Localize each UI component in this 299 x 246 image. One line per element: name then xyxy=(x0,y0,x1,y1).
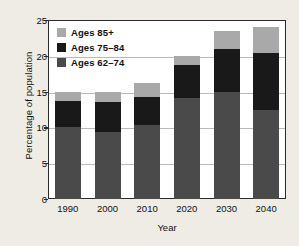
bar-segment xyxy=(55,101,81,127)
y-tick-mark xyxy=(44,199,48,200)
legend-label: Ages 85+ xyxy=(71,27,114,38)
legend-item: Ages 85+ xyxy=(57,26,124,39)
bar-segment xyxy=(253,110,279,200)
bar-segment xyxy=(55,127,81,199)
bar-segment xyxy=(253,53,279,110)
bar-segment xyxy=(55,92,81,101)
y-tick-label: 5 xyxy=(17,158,47,169)
bar-segment xyxy=(95,92,121,101)
y-tick-label: 20 xyxy=(17,50,47,61)
x-axis-title: Year xyxy=(48,222,286,233)
bar-segment xyxy=(214,92,240,199)
bar-segment xyxy=(95,132,121,199)
x-tick-label: 2010 xyxy=(137,203,158,214)
x-tick-label: 2040 xyxy=(256,203,277,214)
bar-segment xyxy=(214,31,240,50)
x-tick-label: 1990 xyxy=(57,203,78,214)
bar-segment xyxy=(214,49,240,92)
legend-swatch-icon xyxy=(57,58,66,67)
bar-segment xyxy=(134,97,160,124)
legend-swatch-icon xyxy=(57,28,66,37)
chart-figure: Percentage of population 0510152025 1990… xyxy=(0,0,299,246)
legend-label: Ages 62–74 xyxy=(71,57,124,68)
bar-column xyxy=(214,20,240,199)
bar-column xyxy=(134,20,160,199)
legend-swatch-icon xyxy=(57,43,66,52)
x-tick-label: 2020 xyxy=(176,203,197,214)
legend-item: Ages 75–84 xyxy=(57,41,124,54)
y-tick-label: 25 xyxy=(17,15,47,26)
legend-item: Ages 62–74 xyxy=(57,56,124,69)
y-tick-label: 15 xyxy=(17,86,47,97)
bar-segment xyxy=(95,102,121,132)
chart-legend: Ages 85+Ages 75–84Ages 62–74 xyxy=(57,26,124,69)
bar-segment xyxy=(134,125,160,199)
y-tick-label: 10 xyxy=(17,122,47,133)
y-tick-label: 0 xyxy=(17,194,47,205)
bar-segment xyxy=(253,27,279,53)
legend-label: Ages 75–84 xyxy=(71,42,124,53)
bar-column xyxy=(253,20,279,199)
bar-segment xyxy=(174,98,200,199)
x-tick-label: 2030 xyxy=(216,203,237,214)
bar-segment xyxy=(174,65,200,98)
bar-segment xyxy=(134,83,160,97)
x-tick-label: 2000 xyxy=(97,203,118,214)
bar-segment xyxy=(174,56,200,65)
bar-column xyxy=(174,20,200,199)
